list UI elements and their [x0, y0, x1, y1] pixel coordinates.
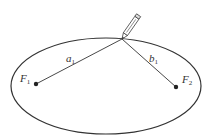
focus-f1-label: F1 [19, 72, 31, 86]
segment-b1-label: b1 [149, 52, 159, 66]
segment-a1-label: a1 [66, 52, 76, 66]
focus-f1-point [34, 82, 38, 86]
focus-f2-label: F2 [181, 73, 193, 87]
focus-f2-point [174, 85, 178, 89]
segment-a1 [36, 39, 122, 84]
pencil-icon [120, 14, 141, 41]
ellipse-curve [11, 38, 201, 134]
ellipse-diagram: F1 F2 a1 b1 [0, 0, 211, 140]
